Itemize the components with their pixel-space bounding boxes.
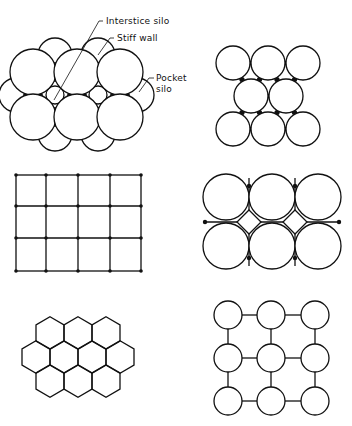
wall-joint bbox=[139, 173, 143, 177]
silo-circle bbox=[54, 94, 100, 140]
wall-joint bbox=[247, 184, 251, 188]
panel-hexagonal-bins bbox=[22, 317, 134, 397]
wall-joint bbox=[76, 236, 80, 240]
hexagonal-bin bbox=[64, 365, 92, 397]
wall-joint bbox=[44, 204, 48, 208]
wall-joint bbox=[247, 256, 251, 260]
silo-circle bbox=[286, 112, 320, 146]
silo-circle bbox=[257, 301, 285, 329]
label-interstice-silo: Interstice silo bbox=[106, 16, 170, 26]
wall-joint bbox=[44, 269, 48, 273]
hexagonal-bin bbox=[64, 317, 92, 349]
wall-joint bbox=[293, 184, 297, 188]
silo-circle bbox=[97, 49, 143, 95]
panel-connected-silos bbox=[214, 301, 329, 415]
silo-circle bbox=[203, 223, 249, 269]
wall-joint bbox=[14, 269, 18, 273]
panel-diamond-interstices bbox=[203, 174, 341, 269]
silo-circle bbox=[251, 46, 285, 80]
wall-joint bbox=[337, 220, 341, 224]
hexagonal-bin bbox=[36, 317, 64, 349]
silo-circle bbox=[203, 174, 249, 220]
hexagonal-bin bbox=[50, 341, 78, 373]
silo-circle bbox=[216, 46, 250, 80]
silo-circle bbox=[257, 344, 285, 372]
silo-circle bbox=[257, 387, 285, 415]
wall-joint bbox=[293, 256, 297, 260]
silo-circle bbox=[234, 79, 268, 113]
hexagonal-bin bbox=[22, 341, 50, 373]
wall-joint bbox=[44, 173, 48, 177]
hexagonal-bin bbox=[92, 317, 120, 349]
label-silo: silo bbox=[156, 84, 172, 94]
silo-circle bbox=[295, 223, 341, 269]
wall-joint bbox=[108, 204, 112, 208]
wall-joint bbox=[14, 173, 18, 177]
main-silos bbox=[10, 49, 143, 140]
silo-circle bbox=[269, 79, 303, 113]
label-stiff-wall: Stiff wall bbox=[117, 33, 158, 43]
silo-circle bbox=[97, 94, 143, 140]
silo-circle bbox=[249, 223, 295, 269]
hexagonal-bin bbox=[36, 365, 64, 397]
wall-joint bbox=[76, 269, 80, 273]
wall-joint bbox=[14, 204, 18, 208]
silo-circle bbox=[249, 174, 295, 220]
silo-circle bbox=[301, 387, 329, 415]
silo-circle bbox=[301, 344, 329, 372]
silo-circle bbox=[295, 174, 341, 220]
silo-arrangements-diagram: Interstice silo Stiff wall Pocket silo bbox=[0, 0, 352, 426]
panel-rectangular-bins bbox=[14, 173, 143, 273]
silo-circle bbox=[214, 344, 242, 372]
wall-joint bbox=[44, 236, 48, 240]
label-pocket: Pocket bbox=[156, 73, 187, 83]
wall-joint bbox=[76, 173, 80, 177]
wall-joint bbox=[76, 204, 80, 208]
silo-circle bbox=[251, 112, 285, 146]
wall-joint bbox=[139, 269, 143, 273]
silo-circle bbox=[10, 94, 56, 140]
hexagonal-bin bbox=[92, 365, 120, 397]
wall-joint bbox=[14, 236, 18, 240]
wall-joint bbox=[108, 269, 112, 273]
silo-circle bbox=[301, 301, 329, 329]
panel-interstice-pocket-silos: Interstice silo Stiff wall Pocket silo bbox=[0, 16, 187, 151]
wall-joint bbox=[139, 236, 143, 240]
silo-circle bbox=[214, 387, 242, 415]
silo-circle bbox=[10, 49, 56, 95]
wall-joint bbox=[139, 204, 143, 208]
silo-circle bbox=[286, 46, 320, 80]
hexagonal-bin bbox=[78, 341, 106, 373]
panel-staggered-silos bbox=[216, 46, 320, 146]
wall-joint bbox=[108, 173, 112, 177]
wall-joint bbox=[203, 220, 207, 224]
silo-circle bbox=[214, 301, 242, 329]
wall-joint bbox=[108, 236, 112, 240]
hexagonal-bin bbox=[106, 341, 134, 373]
silo-circle bbox=[216, 112, 250, 146]
